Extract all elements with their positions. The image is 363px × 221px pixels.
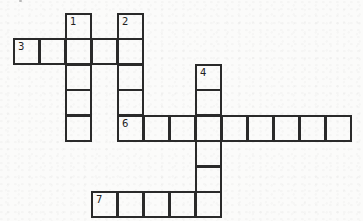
- crossword-cell-r2-c2[interactable]: [65, 64, 92, 91]
- crossword-cell-r7-c4[interactable]: [117, 191, 144, 218]
- crossword-cell-r1-c1[interactable]: [39, 38, 66, 65]
- crossword-cell-r4-c8[interactable]: [221, 115, 248, 142]
- crossword-cell-r1-c3[interactable]: [91, 38, 118, 65]
- crossword-cell-r7-c7[interactable]: [195, 191, 222, 218]
- crossword-cell-r4-c12[interactable]: [325, 115, 352, 142]
- crossword-cell-r4-c2[interactable]: [65, 115, 92, 142]
- crossword-cell-r4-c5[interactable]: [143, 115, 170, 142]
- crossword-cell-r4-c10[interactable]: [273, 115, 300, 142]
- clue-number-label: 1: [70, 16, 76, 27]
- crossword-cell-r1-c2[interactable]: [65, 38, 92, 65]
- clue-number-label: 6: [122, 118, 128, 129]
- crossword-cell-r7-c5[interactable]: [143, 191, 170, 218]
- crossword-cell-r7-c3[interactable]: 7: [91, 191, 118, 218]
- crossword-cell-r0-c4[interactable]: 2: [117, 13, 144, 40]
- crossword-cell-r1-c0[interactable]: 3: [13, 38, 40, 65]
- crossword-cell-r3-c4[interactable]: [117, 89, 144, 116]
- crossword-grid: 126347: [0, 0, 363, 221]
- crossword-cell-r4-c11[interactable]: [299, 115, 326, 142]
- crossword-cell-r7-c6[interactable]: [169, 191, 196, 218]
- clue-number-label: 7: [96, 194, 102, 205]
- crossword-cell-r1-c4[interactable]: [117, 38, 144, 65]
- crossword-cell-r5-c7[interactable]: [195, 140, 222, 167]
- crossword-cell-r4-c7[interactable]: [195, 115, 222, 142]
- crossword-cell-r4-c4[interactable]: 6: [117, 115, 144, 142]
- clue-number-label: 3: [18, 41, 24, 52]
- clue-number-label: 4: [200, 67, 206, 78]
- crossword-cell-r3-c7[interactable]: [195, 89, 222, 116]
- crossword-cell-r0-c2[interactable]: 1: [65, 13, 92, 40]
- crossword-cell-r3-c2[interactable]: [65, 89, 92, 116]
- clue-number-label: 2: [122, 16, 128, 27]
- crossword-cell-r2-c7[interactable]: 4: [195, 64, 222, 91]
- crossword-cell-r4-c9[interactable]: [247, 115, 274, 142]
- crossword-cell-r6-c7[interactable]: [195, 166, 222, 193]
- crossword-cell-r2-c4[interactable]: [117, 64, 144, 91]
- crossword-cell-r4-c6[interactable]: [169, 115, 196, 142]
